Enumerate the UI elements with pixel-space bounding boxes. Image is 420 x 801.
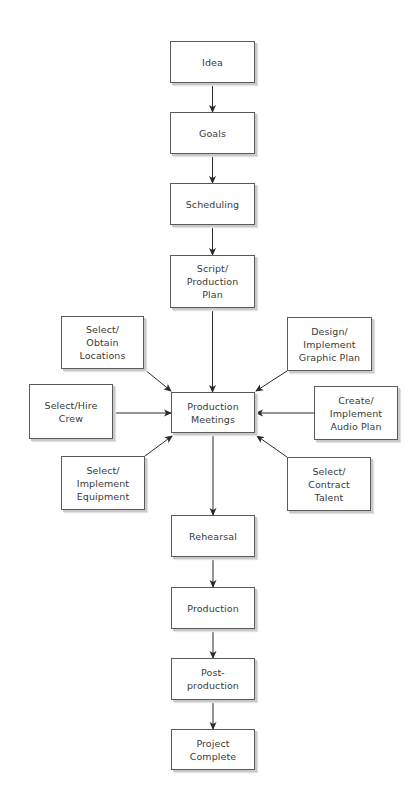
node-label: Production [187, 602, 239, 615]
node-label: Idea [202, 56, 223, 69]
node-label: Goals [199, 127, 226, 140]
node-script-production-plan: Script/ Production Plan [170, 255, 255, 308]
arrow-locations-to-meetings [144, 369, 171, 391]
arrow-equipment-to-meetings [145, 436, 172, 456]
node-idea: Idea [170, 41, 255, 83]
node-rehearsal: Rehearsal [171, 515, 255, 557]
node-production-meetings: Production Meetings [171, 392, 255, 433]
node-design-implement-graphic-plan: Design/ Implement Graphic Plan [287, 317, 372, 371]
production-flowchart: Idea Goals Scheduling Script/ Production… [0, 0, 420, 801]
node-project-complete: Project Complete [171, 729, 255, 770]
node-label: Design/ Implement Graphic Plan [299, 325, 360, 364]
node-label: Select/ Obtain Locations [79, 323, 125, 362]
node-scheduling: Scheduling [170, 183, 255, 225]
node-select-hire-crew: Select/Hire Crew [29, 384, 113, 439]
arrow-talent-to-meetings [257, 436, 287, 457]
node-label: Project Complete [190, 737, 237, 763]
node-label: Rehearsal [189, 530, 237, 543]
node-create-implement-audio-plan: Create/ Implement Audio Plan [314, 386, 398, 440]
node-post-production: Post- production [171, 658, 255, 700]
node-label: Create/ Implement Audio Plan [330, 394, 382, 433]
node-label: Select/Hire Crew [45, 399, 98, 425]
node-label: Script/ Production Plan [187, 262, 239, 301]
arrow-graphic-to-meetings [256, 371, 287, 391]
node-select-implement-equipment: Select/ Implement Equipment [61, 456, 145, 510]
node-label: Select/ Implement Equipment [77, 464, 129, 503]
node-select-contract-talent: Select/ Contract Talent [287, 457, 371, 511]
node-select-obtain-locations: Select/ Obtain Locations [61, 316, 144, 369]
node-goals: Goals [170, 112, 255, 154]
node-label: Production Meetings [187, 400, 239, 426]
node-label: Select/ Contract Talent [308, 465, 350, 504]
node-label: Post- production [187, 666, 239, 692]
node-label: Scheduling [186, 198, 240, 211]
node-production: Production [171, 587, 255, 629]
